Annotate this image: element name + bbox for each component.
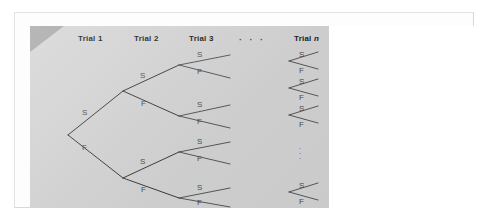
label-trialn-success-a: S [299, 50, 304, 59]
label-trial2-failure-a: F [141, 99, 146, 108]
branch-t3a-success [179, 55, 230, 65]
tree-branches [30, 26, 329, 208]
branch-t3d-success [179, 188, 230, 198]
label-trialn-failure-b: F [299, 93, 304, 102]
branch-t3b-success [179, 105, 230, 116]
branch-t2a-success [123, 65, 179, 91]
figure-frame: Trial 1 Trial 2 Trial 3 · · · Trial n [14, 12, 474, 208]
tree-diagram-panel: Trial 1 Trial 2 Trial 3 · · · Trial n [30, 26, 329, 208]
branch-t3b-failure [179, 116, 230, 128]
branch-t2b-failure [123, 178, 179, 198]
label-trial1-success: S [82, 108, 87, 117]
branch-root-failure [68, 135, 123, 178]
screenshot-root: Trial 1 Trial 2 Trial 3 · · · Trial n [0, 0, 491, 222]
branch-t3d-failure [179, 198, 230, 207]
label-trialn-failure-c: F [299, 120, 304, 129]
label-trial3-failure-b: F [197, 117, 202, 126]
label-trial3-success-c: S [197, 137, 202, 146]
branch-t2b-success [123, 152, 179, 178]
label-trial2-success-a: S [140, 71, 145, 80]
label-trial3-success-b: S [197, 100, 202, 109]
branch-t3c-failure [179, 152, 230, 164]
label-trialn-success-c: S [299, 104, 304, 113]
label-trialn-success-b: S [299, 77, 304, 86]
label-trial3-failure-a: F [197, 67, 202, 76]
label-trial1-failure: F [82, 143, 87, 152]
branch-t3a-failure [179, 65, 230, 78]
label-trial3-failure-c: F [197, 154, 202, 163]
label-trialn-failure-a: F [299, 66, 304, 75]
label-trialn-success-d: S [299, 181, 304, 190]
branch-t3c-success [179, 142, 230, 152]
label-trial2-success-b: S [140, 157, 145, 166]
trialn-vertical-ellipsis: . . . [295, 144, 305, 159]
branch-root-success [68, 91, 123, 135]
branch-t2a-failure [123, 91, 179, 116]
label-trial3-failure-d: F [197, 198, 202, 207]
label-trial2-failure-b: F [141, 185, 146, 194]
label-trialn-failure-d: F [299, 197, 304, 206]
label-trial3-success-d: S [197, 183, 202, 192]
label-trial3-success-a: S [197, 50, 202, 59]
figure-blank-area [329, 26, 488, 208]
